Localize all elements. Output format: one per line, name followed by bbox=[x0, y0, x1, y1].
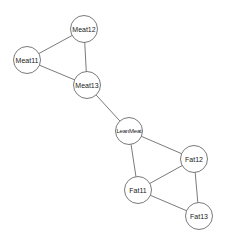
node-label: Meat12 bbox=[72, 26, 95, 33]
network-graph: Meat12Meat11Meat13LeanMeatFat12Fat11Fat1… bbox=[0, 0, 230, 243]
node-meat12[interactable]: Meat12 bbox=[71, 16, 98, 43]
node-fat13[interactable]: Fat13 bbox=[186, 203, 213, 230]
node-label: Fat11 bbox=[129, 187, 146, 194]
node-fat12[interactable]: Fat12 bbox=[181, 146, 208, 173]
node-label: LeanMeat bbox=[116, 128, 142, 134]
edges-layer bbox=[27, 29, 199, 216]
node-label: Meat11 bbox=[16, 57, 39, 64]
node-label: Fat13 bbox=[190, 213, 208, 220]
node-leanmeat[interactable]: LeanMeat bbox=[116, 118, 143, 145]
node-label: Meat13 bbox=[75, 82, 98, 89]
node-fat11[interactable]: Fat11 bbox=[125, 177, 152, 204]
node-meat11[interactable]: Meat11 bbox=[14, 47, 41, 74]
node-meat13[interactable]: Meat13 bbox=[74, 72, 101, 99]
node-label: Fat12 bbox=[185, 156, 203, 163]
nodes-layer: Meat12Meat11Meat13LeanMeatFat12Fat11Fat1… bbox=[14, 16, 213, 230]
